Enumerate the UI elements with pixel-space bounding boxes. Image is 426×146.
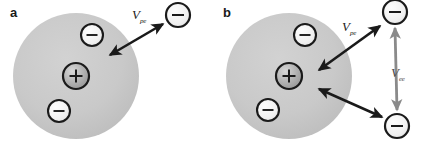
panel-a: a — [0, 0, 213, 146]
v-pe-symbol-a: V — [132, 7, 140, 22]
v-ee-symbol-b: V — [391, 65, 399, 80]
electron-inner-bottom-a — [48, 100, 70, 122]
panel-b: b — [213, 0, 426, 146]
panel-b-label: b — [223, 6, 231, 19]
electron-inner-top-b — [294, 24, 316, 46]
v-pe-label-b: Vpe — [342, 20, 356, 37]
electron-outer-bottomright-b — [385, 114, 409, 138]
positron-center-b — [276, 63, 302, 89]
positron-center-a — [63, 63, 89, 89]
v-pe-label-a: Vpe — [132, 8, 146, 25]
figure-container: a — [0, 0, 426, 146]
electron-outer-topright-a — [166, 3, 190, 27]
v-pe-subscript-b: pe — [350, 29, 356, 37]
v-pe-symbol-b: V — [342, 19, 350, 34]
electron-inner-top-a — [81, 24, 103, 46]
v-ee-label-b: Vee — [391, 66, 405, 83]
electron-outer-topright-b — [383, 0, 407, 24]
panel-a-label: a — [10, 6, 17, 19]
electron-inner-bottom-b — [257, 99, 279, 121]
v-pe-subscript-a: pe — [140, 17, 146, 25]
v-ee-subscript-b: ee — [399, 75, 405, 83]
panel-a-graphics — [0, 0, 213, 146]
